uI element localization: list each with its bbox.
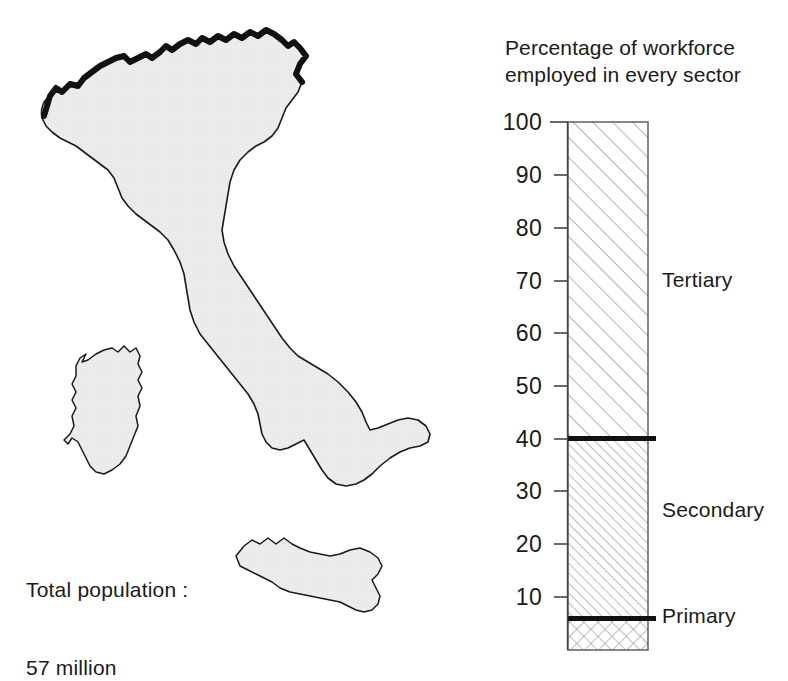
sector-label-secondary: Secondary (662, 498, 764, 522)
total-population-value: 57 million (26, 655, 226, 681)
total-population-label: Total population : (26, 577, 226, 603)
map-region-sardinia (64, 346, 142, 474)
axis-tick-label-20: 20 (478, 531, 542, 558)
map-region-sicily (236, 538, 382, 612)
axis-tick-label-90: 90 (478, 162, 542, 189)
axis-tick-label-30: 30 (478, 478, 542, 505)
workforce-chart-panel: Percentage of workforce employed in ever… (470, 0, 788, 681)
axis-tick-label-50: 50 (478, 373, 542, 400)
bar-segment-secondary (568, 439, 648, 619)
axis-tick-label-70: 70 (478, 268, 542, 295)
infographic-page: Total population : 57 million Percentage… (0, 0, 788, 681)
population-stats-block: Total population : 57 million Percentage… (26, 525, 226, 681)
italy-map-panel: Total population : 57 million Percentage… (0, 0, 470, 681)
sector-label-tertiary: Tertiary (662, 268, 732, 292)
sector-label-primary: Primary (662, 604, 736, 628)
axis-tick-label-40: 40 (478, 426, 542, 453)
bar-segment-tertiary (568, 122, 648, 439)
sardinia-shape (64, 346, 142, 474)
axis-tick-label-10: 10 (478, 584, 542, 611)
sicily-shape (236, 538, 382, 612)
axis-tick-label-60: 60 (478, 320, 542, 347)
bar-segment-primary (568, 619, 648, 650)
axis-tick-label-100: 100 (478, 109, 542, 136)
axis-tick-label-80: 80 (478, 215, 542, 242)
y-axis-ticks (550, 122, 568, 597)
